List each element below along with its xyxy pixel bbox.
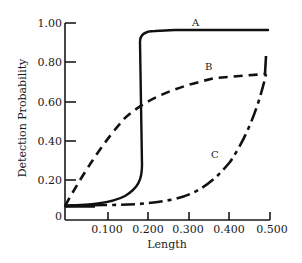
y-tick-label: 0.20 bbox=[38, 174, 63, 187]
x-axis-title: Length bbox=[147, 238, 186, 251]
x-tick-label: 0.100 bbox=[91, 223, 123, 236]
axes bbox=[65, 23, 270, 220]
x-tick-label: 0.400 bbox=[213, 223, 245, 236]
curve-label-a: A bbox=[191, 17, 200, 28]
curve-label-b: B bbox=[205, 61, 212, 72]
y-axis-title: Detection Probability bbox=[16, 58, 29, 177]
y-tick-label: 0 bbox=[55, 210, 62, 223]
y-tick-label: 0.40 bbox=[38, 135, 63, 148]
curve-b-end bbox=[265, 56, 266, 74]
detection-probability-chart: 1.00 0.80 0.60 0.40 0.20 0 0.100 0.200 0… bbox=[0, 0, 302, 263]
x-tick-labels: 0.100 0.200 0.300 0.400 0.500 bbox=[91, 223, 288, 236]
x-tick-label: 0.200 bbox=[132, 223, 164, 236]
y-tick-labels: 1.00 0.80 0.60 0.40 0.20 0 bbox=[38, 17, 63, 223]
curve-b bbox=[65, 74, 265, 206]
x-tick-label: 0.500 bbox=[256, 223, 288, 236]
y-tick-label: 0.80 bbox=[38, 56, 63, 69]
curve-label-c: C bbox=[211, 149, 219, 160]
x-tick-label: 0.300 bbox=[172, 223, 204, 236]
y-tick-label: 1.00 bbox=[38, 17, 63, 30]
curve-a bbox=[65, 30, 268, 206]
y-tick-label: 0.60 bbox=[38, 96, 63, 109]
